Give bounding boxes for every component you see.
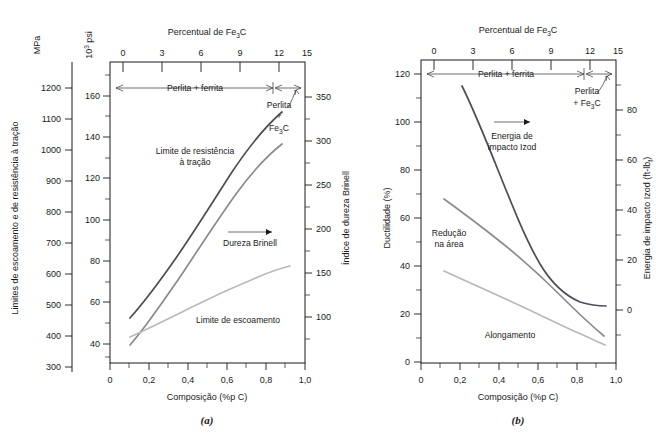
label-yield-strength: Limite de escoamento: [196, 315, 280, 325]
izod-tick-60: 60: [627, 155, 637, 165]
ductility-tick-20: 20: [400, 309, 410, 319]
label-tensile-strength-l2: à tração: [179, 157, 210, 167]
curve-izod-impact-energy: [462, 86, 606, 306]
comp-a-tick-04: 0,4: [182, 375, 195, 385]
mpa-tick-600: 600: [46, 269, 61, 279]
mpa-tick-400: 400: [46, 331, 61, 341]
figure-container: 1200 1100 1000 900 800 700 600 500 400 3…: [0, 0, 656, 433]
panel-a-caption: (a): [201, 414, 214, 427]
fe3c-tick-0: 0: [120, 48, 125, 58]
panel-b-bottom-axis: 0 0,2 0,4 0,6 0,8 1,0 Composição (%p C): [418, 363, 622, 402]
phase-label-pearlite-cementite-a-l3: Fe3C: [269, 123, 289, 135]
phase-label-pearlite-ferrite-b: Perlita + ferrita: [478, 69, 534, 79]
ductility-tick-80: 80: [400, 165, 410, 175]
panel-a-bottom-axis: 0 0,2 0,4 0,6 0,8 1,0 Composição (%p C): [107, 363, 311, 402]
fe3c-tick-12: 12: [274, 48, 284, 58]
ksi-tick-60: 60: [90, 297, 100, 307]
fe3c-b-tick-3: 3: [470, 46, 475, 56]
top-title-pre: Percentual de Fe: [168, 27, 237, 37]
panel-a-mpa-axis: 1200 1100 1000 900 800 700 600 500 400 3…: [10, 36, 72, 372]
ksi-tick-80: 80: [90, 256, 100, 266]
panel-a-top-axis: 0 3 6 9 12 15 Percentual de Fe3C: [120, 27, 312, 72]
ductility-tick-100: 100: [395, 117, 410, 127]
mpa-tick-1200: 1200: [41, 83, 61, 93]
figure-svg: 1200 1100 1000 900 800 700 600 500 400 3…: [0, 0, 656, 433]
ksi-unit-pre: 10: [84, 49, 94, 59]
comp-a-tick-10: 1,0: [299, 375, 312, 385]
izod-tick-80: 80: [627, 105, 637, 115]
fe3c-b-tick-12: 12: [585, 46, 595, 56]
comp-a-tick-0: 0: [107, 375, 112, 385]
ksi-tick-140: 140: [85, 132, 100, 142]
ductility-tick-120: 120: [395, 69, 410, 79]
brinell-tick-150: 150: [316, 268, 331, 278]
mpa-tick-500: 500: [46, 300, 61, 310]
mpa-unit-label: MPa: [32, 36, 42, 55]
label-elongation: Alongamento: [485, 330, 536, 340]
brinell-tick-300: 300: [316, 136, 331, 146]
fe3c-tick-9: 9: [237, 48, 242, 58]
ksi-tick-40: 40: [90, 339, 100, 349]
label-reduction-area-l1: Redução: [432, 228, 467, 238]
panel-a-y-axis-title: Limites de escoamento e de resistência à…: [10, 121, 20, 314]
panel-a-brinell-axis: 350 300 250 200 150 100 Índice de dureza…: [305, 92, 351, 339]
brinell-tick-200: 200: [316, 224, 331, 234]
label-reduction-area-l2: na área: [434, 239, 463, 249]
mpa-tick-800: 800: [46, 207, 61, 217]
izod-tick-20: 20: [627, 255, 637, 265]
panel-a-x-axis-title: Composição (%p C): [167, 392, 248, 402]
brinell-tick-350: 350: [316, 92, 331, 102]
panel-a-phase-regions: Perlita + ferrita Perlita + Fe3C: [116, 82, 301, 135]
fe3c-b-tick-9: 9: [548, 46, 553, 56]
panel-a-ksi-axis: 160 140 120 100 80 60 40 103 psi: [83, 31, 110, 357]
panel-b-top-axis: 0 3 6 9 12 15 Percentual de Fe3C: [431, 25, 623, 70]
label-brinell-hardness: Dureza Brinell: [223, 238, 277, 248]
mpa-tick-900: 900: [46, 176, 61, 186]
panel-a-y2-axis-title: Índice de dureza Brinell: [341, 171, 351, 265]
mpa-tick-1100: 1100: [42, 114, 61, 124]
ksi-unit-label: 103 psi: [83, 31, 94, 59]
brinell-tick-250: 250: [316, 180, 331, 190]
phase-label-pearlite-cementite-b-l2: + Fe3C: [573, 98, 600, 110]
ksi-tick-120: 120: [85, 173, 100, 183]
izod-arrow-icon: [494, 119, 530, 125]
fe3c-b-tick-0: 0: [431, 46, 436, 56]
comp-b-tick-06: 0,6: [532, 375, 545, 385]
panel-a-top-axis-title: Percentual de Fe3C: [168, 27, 247, 39]
svg-text:103 psi: 103 psi: [83, 31, 94, 59]
comp-b-tick-02: 0,2: [454, 375, 467, 385]
curve-tensile-strength: [130, 112, 282, 318]
comp-a-tick-08: 0,8: [260, 375, 273, 385]
ductility-tick-60: 60: [400, 213, 410, 223]
ksi-tick-160: 160: [85, 91, 100, 101]
ksi-tick-100: 100: [85, 215, 100, 225]
top-title-post: C: [240, 27, 247, 37]
phase-label-pearlite-cementite-a-l1: Perlita: [267, 100, 292, 110]
comp-b-tick-0: 0: [418, 375, 423, 385]
comp-b-tick-08: 0,8: [571, 375, 584, 385]
izod-tick-0: 0: [627, 305, 632, 315]
panel-a-curve-labels: Limite de resistência à tração Dureza Br…: [156, 146, 280, 325]
panel-a: 1200 1100 1000 900 800 700 600 500 400 3…: [10, 27, 351, 427]
comp-a-tick-06: 0,6: [221, 375, 234, 385]
mpa-tick-300: 300: [46, 362, 61, 372]
izod-tick-40: 40: [627, 205, 637, 215]
panel-b-ductility-axis: 120 100 80 60 40 20 0 Ductilidade (%): [382, 69, 421, 367]
fe3c-b-tick-15: 15: [613, 46, 623, 56]
ductility-tick-40: 40: [400, 261, 410, 271]
label-tensile-strength-l1: Limite de resistência: [156, 146, 235, 156]
label-izod-l1: Energia de: [491, 131, 533, 141]
panel-b-caption: (b): [512, 414, 525, 427]
comp-b-tick-04: 0,4: [493, 375, 506, 385]
panel-b-curves: [444, 86, 606, 345]
phase-label-pearlite-cementite-b-l1: Perlita: [575, 86, 600, 96]
panel-b-izod-axis: 80 60 40 20 0 Energia de impacto Izod (f…: [616, 85, 654, 335]
panel-b-y2-axis-title: Energia de impacto Izod (ft-lbf): [642, 157, 654, 279]
panel-b-top-axis-title: Percentual de Fe3C: [479, 25, 558, 37]
panel-b-x-axis-title: Composição (%p C): [478, 392, 559, 402]
mpa-ticks: [65, 88, 72, 367]
curve-reduction-in-area: [444, 199, 604, 336]
comp-a-tick-02: 0,2: [143, 375, 156, 385]
phase-label-pearlite-ferrite-a: Perlita + ferrita: [167, 83, 223, 93]
fe3c-tick-15: 15: [302, 48, 312, 58]
